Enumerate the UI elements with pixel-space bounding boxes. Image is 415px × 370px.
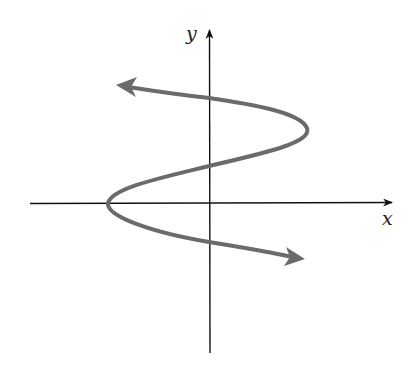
x-axis — [30, 203, 392, 204]
x-axis-label: x — [382, 207, 393, 229]
diagram-canvas: y x — [0, 0, 415, 370]
graph-svg — [0, 0, 415, 370]
sideways-s-curve — [108, 87, 307, 257]
y-axis — [210, 30, 211, 353]
y-axis-label: y — [186, 22, 197, 44]
